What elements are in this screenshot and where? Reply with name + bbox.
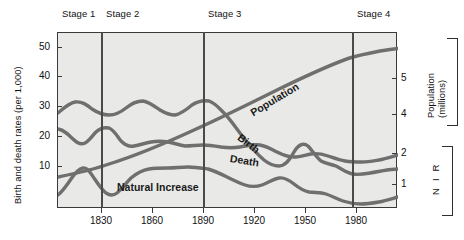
population-curve	[58, 49, 398, 178]
x-tick-label-1920: 1920	[237, 215, 271, 226]
nir-axis-bracket	[442, 146, 453, 216]
nir-tick-label-2: 2	[401, 147, 407, 158]
stage-label-1: Stage 1	[62, 8, 95, 19]
population-axis-label-line2: (millions)	[437, 80, 447, 118]
death-curve	[58, 128, 398, 162]
nir-axis-label: N I R	[430, 162, 441, 195]
demographic-transition-chart: Stage 1 Stage 2 Stage 3 Stage 4 Populati…	[0, 0, 464, 240]
y-tick-label-40: 40	[30, 70, 50, 81]
x-tick-mark-1950	[305, 208, 306, 213]
population-axis-bracket	[447, 38, 458, 126]
y-tick-label-10: 10	[30, 160, 50, 171]
stage-divider-1890	[203, 32, 205, 208]
x-tick-mark-1920	[254, 208, 255, 213]
stage-label-2: Stage 2	[106, 8, 139, 19]
y-tick-label-50: 50	[30, 41, 50, 52]
y-tick-mark-50	[57, 47, 62, 48]
x-tick-mark-1890	[203, 208, 204, 213]
pop-tick-mark-4	[392, 114, 397, 115]
x-tick-label-1980: 1980	[339, 215, 373, 226]
x-tick-label-1950: 1950	[288, 215, 322, 226]
stage-divider-1830	[101, 32, 103, 208]
population-axis-label-line1: Population	[426, 73, 436, 118]
y-tick-label-20: 20	[30, 130, 50, 141]
x-tick-mark-1830	[101, 208, 102, 213]
stage-label-4: Stage 4	[357, 8, 390, 19]
plot-area	[57, 32, 397, 208]
stage-label-3: Stage 3	[208, 8, 241, 19]
curves-svg	[58, 33, 398, 209]
pop-tick-mark-5	[392, 78, 397, 79]
y-tick-mark-40	[57, 76, 62, 77]
nir-tick-mark-1	[392, 184, 397, 185]
x-tick-mark-1860	[152, 208, 153, 213]
stage-divider-1975	[352, 32, 354, 208]
nir-tick-mark-2	[392, 153, 397, 154]
y-tick-mark-20	[57, 136, 62, 137]
pop-tick-label-5: 5	[401, 72, 407, 83]
nir-tick-label-1: 1	[401, 178, 407, 189]
x-tick-label-1890: 1890	[186, 215, 220, 226]
y-tick-mark-10	[57, 166, 62, 167]
curve-label-natural-increase: Natural Increase	[117, 181, 199, 193]
x-tick-label-1830: 1830	[84, 215, 118, 226]
x-tick-label-1860: 1860	[135, 215, 169, 226]
y-axis-label-left: Birth and death rates (per 1,000)	[13, 66, 23, 204]
x-tick-mark-1980	[356, 208, 357, 213]
y-tick-label-30: 30	[30, 100, 50, 111]
pop-tick-label-4: 4	[401, 108, 407, 119]
y-tick-mark-30	[57, 106, 62, 107]
